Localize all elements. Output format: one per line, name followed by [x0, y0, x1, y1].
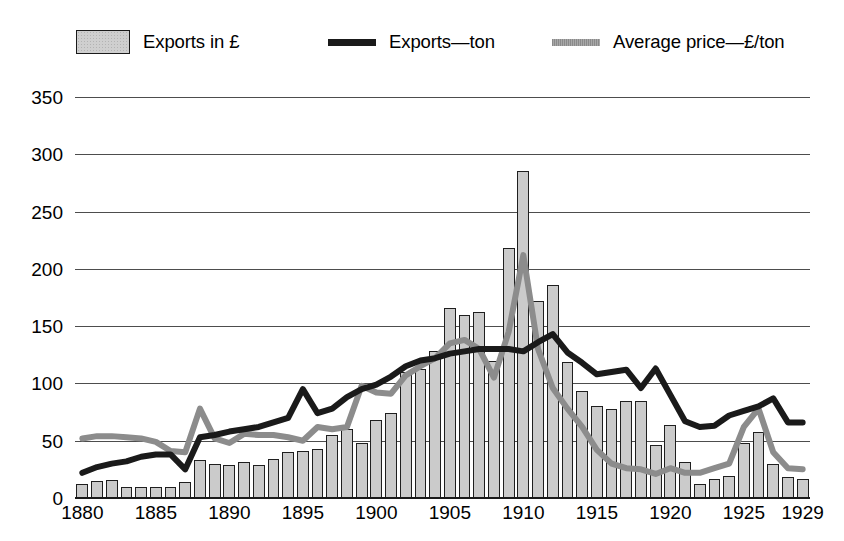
x-tick-label-1895: 1895	[282, 503, 324, 522]
legend-label-exports-ton: Exports—ton	[389, 31, 495, 53]
legend-swatch-box-icon	[76, 30, 130, 54]
y-tick-label-350: 350	[31, 88, 63, 107]
plot-area	[75, 97, 810, 498]
legend-item-exports-value: Exports in £	[76, 24, 240, 60]
y-tick-label-50: 50	[42, 431, 63, 450]
line-series-layer	[75, 97, 810, 498]
line-exports-ton	[82, 334, 802, 473]
chart-root: Exports in £ Exports—ton Average price—£…	[0, 0, 844, 541]
legend-label-exports-value: Exports in £	[143, 31, 240, 53]
legend-label-avg-price: Average price—£/ton	[613, 31, 785, 53]
x-tick-label-1929: 1929	[782, 503, 824, 522]
y-tick-label-300: 300	[31, 145, 63, 164]
y-tick-label-200: 200	[31, 259, 63, 278]
legend-item-avg-price: Average price—£/ton	[552, 24, 785, 60]
x-tick-label-1880: 1880	[61, 503, 103, 522]
y-tick-label-100: 100	[31, 374, 63, 393]
legend-swatch-gray-line-icon	[552, 39, 600, 46]
x-tick-label-1925: 1925	[723, 503, 765, 522]
x-axis-ticks: 1880188518901895190019051910191519201925…	[0, 503, 844, 533]
x-tick-label-1905: 1905	[429, 503, 471, 522]
x-tick-label-1900: 1900	[355, 503, 397, 522]
y-axis-ticks: 050100150200250300350	[0, 97, 75, 498]
legend-item-exports-ton: Exports—ton	[328, 24, 495, 60]
x-tick-label-1890: 1890	[208, 503, 250, 522]
y-tick-label-150: 150	[31, 317, 63, 336]
y-tick-label-250: 250	[31, 202, 63, 221]
x-tick-label-1910: 1910	[502, 503, 544, 522]
chart-legend: Exports in £ Exports—ton Average price—£…	[0, 24, 844, 60]
x-axis-baseline	[75, 497, 810, 499]
legend-swatch-black-line-icon	[328, 39, 376, 46]
line-avg-price	[82, 255, 802, 474]
x-tick-label-1920: 1920	[649, 503, 691, 522]
x-tick-label-1915: 1915	[576, 503, 618, 522]
x-tick-label-1885: 1885	[135, 503, 177, 522]
